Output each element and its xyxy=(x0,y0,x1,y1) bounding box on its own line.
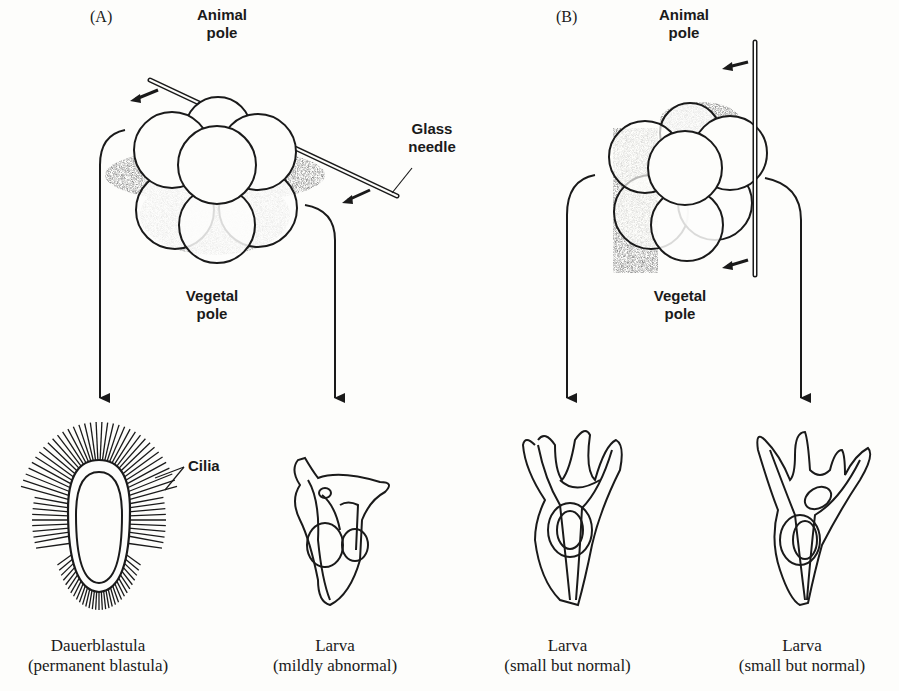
panel-b-embryo xyxy=(609,42,767,275)
larva-small-normal-drawing-1 xyxy=(523,431,622,605)
animal-pole-label-a: Animal pole xyxy=(182,6,262,42)
outcome-subtitle-a1: (permanent blastula) xyxy=(0,656,196,675)
panel-label-b: (B) xyxy=(556,8,577,26)
arrow-icon xyxy=(130,90,158,103)
outcome-title-b2: Larva xyxy=(712,636,892,655)
dauerblastula-drawing xyxy=(21,422,184,610)
arrow-icon xyxy=(722,62,748,71)
outcome-subtitle-b1: (small but normal) xyxy=(480,656,655,675)
outcome-subtitle-a2: (mildly abnormal) xyxy=(250,656,420,675)
panel-a-embryo xyxy=(105,80,412,263)
cilia-label: Cilia xyxy=(188,457,220,475)
animal-pole-label-b: Animal pole xyxy=(644,6,724,42)
flow-arrow-b-right xyxy=(765,178,801,398)
arrow-icon xyxy=(342,190,370,204)
embryo-separation-diagram xyxy=(0,0,899,691)
outcome-subtitle-b2: (small but normal) xyxy=(712,656,892,675)
panel-label-a: (A) xyxy=(90,8,112,26)
flow-arrow-a-right xyxy=(305,205,335,398)
outcome-title-a2: Larva xyxy=(250,636,420,655)
larva-mildly-abnormal-drawing xyxy=(294,458,389,605)
glass-needle-label: Glass needle xyxy=(402,120,462,156)
larva-small-normal-drawing-2 xyxy=(757,432,870,605)
flow-arrow-b-left xyxy=(567,175,595,398)
vegetal-pole-label-b: Vegetal pole xyxy=(640,287,720,323)
outcome-title-a1: Dauerblastula xyxy=(0,636,196,655)
outcome-title-b1: Larva xyxy=(480,636,655,655)
vegetal-pole-label-a: Vegetal pole xyxy=(172,287,252,323)
arrow-icon xyxy=(722,260,748,270)
